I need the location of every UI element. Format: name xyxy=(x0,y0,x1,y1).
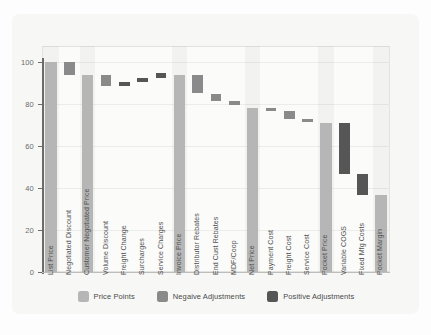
x-category-label: Volume Discount xyxy=(102,221,109,275)
y-tick-label: 0 xyxy=(0,268,34,277)
legend-label: Positive Adjustments xyxy=(283,292,354,301)
chart-legend: Price PointsNegaive AdjustmentsPositive … xyxy=(42,289,390,303)
legend-swatch-icon xyxy=(157,291,168,302)
legend-item[interactable]: Negaive Adjustments xyxy=(157,291,245,302)
x-category-label: Pocket Price xyxy=(321,235,328,276)
x-category-label: Distributor Rebates xyxy=(193,213,200,275)
x-category-label: Payment Cost xyxy=(267,230,274,275)
x-category-label: Surcharges xyxy=(138,238,145,275)
bar-neg xyxy=(101,75,112,87)
x-category-label: End Cust Rebates xyxy=(212,217,219,275)
bar-neg xyxy=(284,111,295,118)
x-category-label: Fixed Mfg Costs xyxy=(358,223,365,275)
legend-swatch-icon xyxy=(267,291,278,302)
x-category-label: Invoice Price xyxy=(175,234,182,275)
x-category-label: MDF/Coop xyxy=(230,240,237,275)
x-category-label: Freight Change xyxy=(120,225,127,275)
x-category-label: Negotiated Discount xyxy=(65,210,72,275)
x-category-label: Freight Cost xyxy=(285,236,292,275)
y-tick-label: 40 xyxy=(0,184,34,193)
x-category-label: Pocket Margin xyxy=(376,229,383,275)
y-tick-label: 60 xyxy=(0,142,34,151)
legend-item[interactable]: Positive Adjustments xyxy=(267,291,354,302)
x-category-label: Net Price xyxy=(248,245,255,275)
bar-total xyxy=(45,62,56,272)
bar-pos xyxy=(357,174,368,195)
bar-neg xyxy=(229,101,240,105)
y-tick-label: 20 xyxy=(0,226,34,235)
bar-neg xyxy=(302,119,313,122)
x-category-label: Variable COGS xyxy=(340,226,347,275)
legend-label: Negaive Adjustments xyxy=(173,292,245,301)
bar-pos xyxy=(156,73,167,78)
x-category-label: Customer Negotiated Price xyxy=(83,188,90,275)
bar-neg xyxy=(64,62,75,75)
legend-label: Price Points xyxy=(94,292,135,301)
x-category-label: List Price xyxy=(47,245,54,275)
x-category-label: Service Cost xyxy=(303,234,310,275)
legend-item[interactable]: Price Points xyxy=(78,291,135,302)
bar-pos xyxy=(339,123,350,174)
y-tick-label: 100 xyxy=(0,58,34,67)
x-category-label: Service Charges xyxy=(157,222,164,275)
bar-neg xyxy=(192,75,203,94)
y-tick-label: 80 xyxy=(0,100,34,109)
bar-pos xyxy=(137,78,148,82)
bar-neg xyxy=(266,108,277,111)
legend-swatch-icon xyxy=(78,291,89,302)
bar-neg xyxy=(211,94,222,101)
bar-pos xyxy=(119,82,130,86)
waterfall-chart-figure: 020406080100 List PriceNegotiated Discou… xyxy=(0,0,431,335)
